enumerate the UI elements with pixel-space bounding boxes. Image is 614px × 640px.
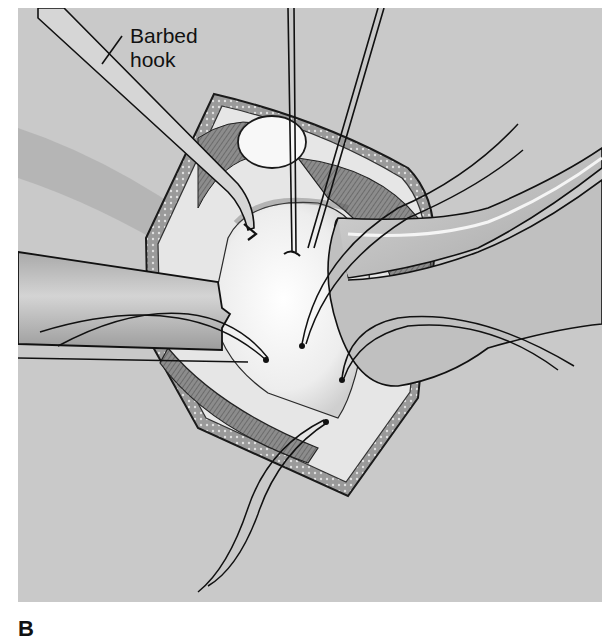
barbed-hook-callout: Barbed hook — [130, 24, 198, 72]
panel-label: B — [18, 618, 34, 640]
surgical-drawing — [18, 8, 602, 602]
surgical-illustration: Barbed hook — [18, 8, 602, 602]
callout-line-1: Barbed — [130, 24, 198, 48]
callout-line-2: hook — [130, 48, 198, 72]
